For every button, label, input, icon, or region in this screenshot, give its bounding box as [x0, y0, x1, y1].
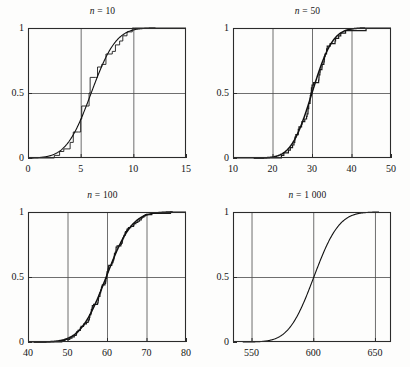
- x-tick-label: 50: [376, 164, 406, 174]
- x-tick-label: 15: [171, 164, 201, 174]
- y-tick-label: 0: [205, 153, 229, 163]
- panel-n-50: n = 5000.511020304050: [205, 0, 410, 183]
- y-tick-label: 0: [0, 153, 24, 163]
- x-tick-label: 40: [13, 348, 43, 358]
- y-tick-label: 1: [205, 23, 229, 33]
- panel-title-value: = 100: [92, 190, 118, 200]
- x-tick-label: 80: [171, 348, 201, 358]
- plot-svg: [28, 212, 186, 342]
- panel-title-value: = 1 000: [293, 190, 326, 200]
- panel-n-100: n = 10000.514050607080: [0, 184, 205, 367]
- plot-area: [28, 28, 186, 158]
- empirical-cdf-step: [28, 28, 186, 158]
- plot-svg: [233, 28, 391, 158]
- x-tick-label: 0: [13, 164, 43, 174]
- y-tick-label: 0.5: [205, 88, 229, 98]
- plot-area: [233, 212, 391, 342]
- panel-title: n = 50: [205, 6, 410, 16]
- panel-title-value: = 10: [95, 6, 116, 16]
- y-tick-label: 1: [0, 23, 24, 33]
- y-tick-label: 0.5: [0, 88, 24, 98]
- x-tick-label: 10: [218, 164, 248, 174]
- y-tick-label: 0: [0, 337, 24, 347]
- panel-title: n = 100: [0, 190, 205, 200]
- plot-frame: [234, 213, 391, 342]
- normal-cdf-curve: [254, 28, 366, 158]
- plot-svg: [233, 212, 391, 342]
- x-tick-label: 10: [118, 164, 148, 174]
- x-tick-label: 600: [298, 348, 328, 358]
- x-tick-label: 650: [360, 348, 390, 358]
- y-tick-label: 1: [205, 207, 229, 217]
- panel-title: n = 10: [0, 6, 205, 16]
- panel-title-value: = 50: [300, 6, 321, 16]
- y-tick-label: 0.5: [0, 272, 24, 282]
- panel-n-10: n = 1000.51051015: [0, 0, 205, 183]
- figure-canvas: n = 1000.51051015n = 5000.511020304050n …: [0, 0, 410, 367]
- x-tick-label: 5: [66, 164, 96, 174]
- x-tick-label: 20: [258, 164, 288, 174]
- gridlines: [28, 28, 186, 158]
- plot-area: [28, 212, 186, 342]
- normal-cdf-curve: [28, 28, 155, 158]
- plot-svg: [28, 28, 186, 158]
- normal-cdf-curve: [34, 212, 173, 342]
- panel-n-1000: n = 1 00000.51550600650: [205, 184, 410, 367]
- x-tick-label: 50: [53, 348, 83, 358]
- normal-cdf-curve: [243, 212, 379, 342]
- y-tick-label: 0.5: [205, 272, 229, 282]
- plot-frame: [29, 29, 186, 158]
- gridlines: [233, 212, 391, 342]
- panel-title: n = 1 000: [205, 190, 410, 200]
- x-tick-label: 30: [297, 164, 327, 174]
- x-tick-label: 70: [132, 348, 162, 358]
- x-tick-label: 40: [337, 164, 367, 174]
- x-tick-label: 550: [237, 348, 267, 358]
- y-tick-label: 1: [0, 207, 24, 217]
- plot-area: [233, 28, 391, 158]
- y-tick-label: 0: [205, 337, 229, 347]
- x-tick-label: 60: [92, 348, 122, 358]
